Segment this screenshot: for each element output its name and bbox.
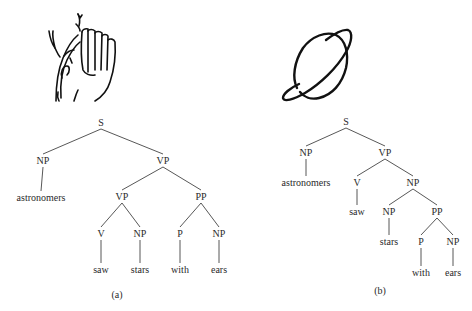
ear-listening-icon	[49, 14, 115, 101]
tree-node-label: P	[418, 236, 424, 247]
tree-edge	[421, 218, 437, 235]
tree-edge	[437, 218, 453, 235]
tree-edge	[357, 159, 385, 176]
tree-node-label: S	[343, 116, 349, 127]
parse-tree-figure: SNPVPastronomersVPPPVNPPNPsawstarswithea…	[0, 0, 472, 311]
tree-node-label: NP	[213, 228, 226, 239]
tree-leaf-word: saw	[349, 206, 365, 217]
tree-node-label: VP	[157, 155, 170, 166]
tree-node-label: NP	[134, 228, 147, 239]
tree-leaf-word: ears	[445, 267, 461, 278]
tree-node-label: NP	[447, 236, 460, 247]
tree-node-label: PP	[195, 191, 207, 202]
parse-tree-a: SNPVPastronomersVPPPVNPPNPsawstarswithea…	[17, 117, 228, 275]
tree-edge	[306, 128, 346, 146]
caption-a: (a)	[111, 289, 122, 301]
tree-edge	[122, 167, 163, 190]
tree-edge	[201, 203, 219, 227]
tree-node-label: S	[98, 117, 104, 128]
tree-node-label: NP	[300, 147, 313, 158]
tree-leaf-word: with	[412, 267, 430, 278]
tree-edge	[41, 167, 43, 191]
tree-leaf-word: ears	[211, 264, 227, 275]
tree-node-label: V	[353, 177, 361, 188]
tree-edge	[101, 129, 163, 154]
caption-b: (b)	[374, 285, 386, 297]
tree-leaf-word: saw	[93, 264, 109, 275]
tree-node-label: NP	[407, 177, 420, 188]
tree-edge	[180, 203, 201, 227]
tree-leaf-word: with	[171, 264, 189, 275]
tree-leaf-word: astronomers	[17, 192, 66, 203]
tree-edge	[346, 128, 385, 146]
tree-leaf-word: stars	[380, 236, 398, 247]
planet-saturn-icon	[283, 30, 351, 100]
tree-leaf-word: stars	[131, 264, 149, 275]
tree-node-label: VP	[116, 191, 129, 202]
parse-tree-b: SNPVPastronomersVNPsawNPPPstarsPNPwithea…	[282, 116, 462, 278]
tree-node-label: P	[177, 228, 183, 239]
tree-edge	[122, 203, 140, 227]
tree-edge	[413, 189, 437, 205]
tree-node-label: NP	[383, 206, 396, 217]
tree-edge	[43, 129, 101, 154]
tree-node-label: VP	[379, 147, 392, 158]
tree-edge	[389, 189, 413, 205]
tree-leaf-word: astronomers	[282, 177, 331, 188]
tree-edge	[101, 203, 122, 227]
tree-edge	[163, 167, 201, 190]
tree-node-label: V	[97, 228, 105, 239]
tree-node-label: NP	[37, 155, 50, 166]
tree-node-label: PP	[431, 206, 443, 217]
tree-edge	[385, 159, 413, 176]
